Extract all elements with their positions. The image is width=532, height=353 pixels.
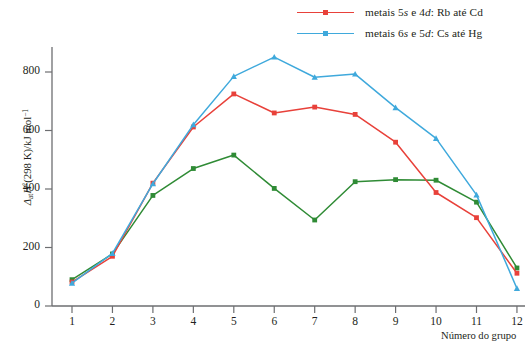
data-point-marker: [312, 218, 317, 223]
y-axis-label: ΔatH°(298 K)/kJ mol−1: [21, 72, 35, 242]
data-point-marker: [151, 193, 156, 198]
x-tick-label: 4: [180, 315, 206, 327]
y-tick-label: 0: [6, 298, 40, 310]
series-line: [72, 57, 517, 288]
data-point-marker: [272, 186, 277, 191]
data-point-marker: [271, 54, 277, 60]
data-point-marker: [231, 92, 236, 97]
chart-svg: [0, 0, 532, 353]
x-tick-label: 8: [342, 315, 368, 327]
data-point-marker: [474, 215, 479, 220]
plot-area: 0200400600800 123456789101112 Número do …: [0, 0, 532, 353]
series-lines: [69, 54, 520, 291]
series-line: [72, 155, 517, 280]
data-point-marker: [231, 153, 236, 158]
x-tick-label: 1: [59, 315, 85, 327]
x-tick-label: 9: [383, 315, 409, 327]
data-point-marker: [353, 179, 358, 184]
x-axis-label: Número do grupo: [441, 330, 516, 341]
x-tick-label: 12: [504, 315, 530, 327]
data-point-marker: [393, 140, 398, 145]
data-point-marker: [191, 166, 196, 171]
data-point-marker: [434, 178, 439, 183]
x-tick-label: 5: [221, 315, 247, 327]
x-tick-label: 7: [302, 315, 328, 327]
x-tick-label: 2: [99, 315, 125, 327]
chart-root: metais 5s e 4d: Rb até Cd metais 6s e 5d…: [0, 0, 532, 353]
data-point-marker: [393, 177, 398, 182]
x-tick-label: 10: [423, 315, 449, 327]
x-tick-label: 3: [140, 315, 166, 327]
data-point-marker: [515, 271, 520, 276]
data-point-marker: [514, 285, 520, 291]
data-point-marker: [515, 266, 520, 271]
data-point-marker: [434, 190, 439, 195]
x-tick-label: 6: [261, 315, 287, 327]
x-tick-label: 11: [464, 315, 490, 327]
data-point-marker: [312, 105, 317, 110]
data-point-marker: [353, 112, 358, 117]
axis-lines: [45, 47, 525, 313]
data-point-marker: [272, 111, 277, 116]
